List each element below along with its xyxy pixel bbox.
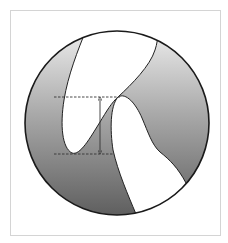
cross-section-diagram: [0, 0, 228, 243]
